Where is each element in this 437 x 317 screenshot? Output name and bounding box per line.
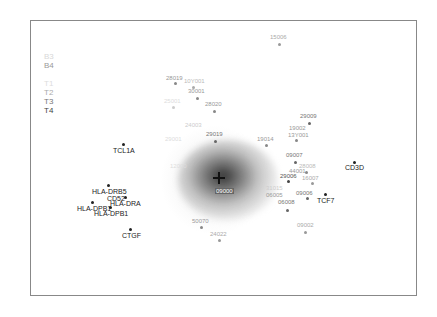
label-06005: 06005 [266, 192, 283, 198]
label-16007: 16007 [302, 175, 319, 181]
point-29019 [214, 140, 217, 143]
label-cd3d: CD3D [345, 165, 364, 171]
point-09002 [304, 231, 307, 234]
label-tcl1a: TCL1A [113, 148, 135, 154]
label-hla-dra: HLA-DRA [110, 201, 141, 207]
label-25001: 25001 [164, 98, 181, 104]
point-ctgf [129, 228, 132, 231]
label-15006: 15006 [270, 34, 287, 40]
label-30001: 30001 [188, 88, 205, 94]
point-06008 [286, 209, 289, 212]
label-06008: 06008 [278, 199, 295, 205]
centroid-cross-icon [213, 172, 225, 184]
label-29001: 29001 [165, 136, 182, 142]
point-16007 [311, 182, 314, 185]
label-13y001: 13Y001 [288, 132, 309, 138]
legend-b3: B3 [44, 52, 54, 61]
point-19014 [265, 144, 268, 147]
point-hla-drb5 [107, 184, 110, 187]
label-09006: 09006 [296, 190, 313, 196]
point-28020 [213, 110, 216, 113]
label-24003: 24003 [185, 122, 202, 128]
point-28019 [174, 82, 177, 85]
legend-t4: T4 [44, 106, 54, 115]
label-28019: 28019 [166, 75, 183, 81]
point-09007 [294, 161, 297, 164]
point-29006 [287, 180, 290, 183]
point-29009 [308, 122, 311, 125]
legend-t1: T1 [44, 79, 54, 88]
label-09007: 09007 [286, 152, 303, 158]
point-tcl1a [122, 143, 125, 146]
label-09002: 09002 [297, 222, 314, 228]
label-hla-dpb1-b: HLA-DPB1 [94, 211, 128, 217]
label-19014: 19014 [257, 136, 274, 142]
label-19002: 19002 [289, 125, 306, 131]
point-50070 [200, 226, 203, 229]
legend-t2: T2 [44, 88, 54, 97]
label-29009: 29009 [300, 113, 317, 119]
point-hla-dpb1-a [91, 201, 94, 204]
point-09006 [306, 197, 309, 200]
point-30001 [196, 97, 199, 100]
legend-b4: B4 [44, 61, 54, 70]
label-ctgf: CTGF [122, 233, 141, 239]
point-25001 [172, 106, 175, 109]
point-tcf7 [324, 193, 327, 196]
point-15006 [278, 43, 281, 46]
label-29019: 29019 [206, 131, 223, 137]
label-50070: 50070 [192, 218, 209, 224]
label-10y001: 10Y001 [184, 78, 205, 84]
label-tcf7: TCF7 [317, 198, 335, 204]
label-28020: 28020 [205, 101, 222, 107]
label-24022: 24022 [210, 231, 227, 237]
point-19002 [295, 139, 298, 142]
label-31015: 31015 [266, 185, 283, 191]
label-12000: 12000 [170, 163, 187, 169]
point-24022 [218, 239, 221, 242]
label-29006: 29006 [280, 173, 297, 179]
density-cloud [178, 140, 278, 220]
legend-t3: T3 [44, 97, 54, 106]
label-09000: 09000 [215, 188, 234, 194]
legend: B3 B4 T1 T2 T3 T4 [44, 52, 54, 115]
